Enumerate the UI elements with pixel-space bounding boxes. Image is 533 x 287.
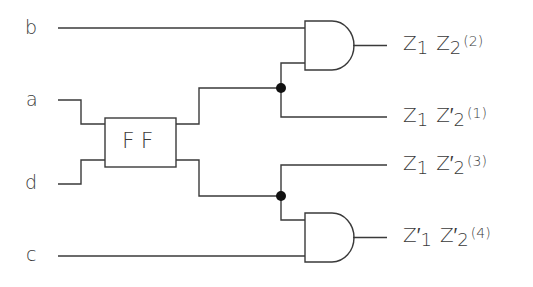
output-4-index: (4) — [471, 225, 491, 241]
output-2-z2: Z — [436, 31, 450, 55]
junction-dot-lower — [276, 191, 286, 201]
wire-ff-out-lower — [176, 160, 281, 196]
wire-junction-lower-to-gate — [281, 196, 305, 220]
wire-d — [58, 160, 105, 184]
output-1-index: (1) — [467, 105, 487, 121]
output-label-3: Z1Z′2(3) — [403, 153, 487, 173]
wire-a — [58, 100, 105, 124]
wire-output-3 — [281, 165, 387, 196]
flip-flop-label: FF — [122, 130, 159, 152]
and-gate-bottom — [305, 213, 354, 262]
output-2-z2-sub: 2 — [450, 37, 461, 58]
input-label-d: d — [25, 173, 37, 192]
input-label-b: b — [25, 18, 37, 37]
output-1-z1-sub: 1 — [417, 109, 428, 130]
output-2-z1-sub: 1 — [417, 37, 428, 58]
output-3-z2: Z′ — [436, 151, 453, 175]
and-gate-top — [305, 21, 354, 70]
output-label-4: Z′1Z′2(4) — [403, 225, 491, 245]
wire-junction-upper-to-gate — [281, 63, 305, 88]
output-label-2: Z1Z2(2) — [403, 33, 483, 53]
output-4-z1: Z′ — [403, 223, 420, 247]
output-4-z2: Z′ — [440, 223, 457, 247]
wire-output-1 — [281, 88, 387, 117]
input-label-a: a — [26, 90, 38, 109]
output-4-z1-sub: 1 — [420, 229, 431, 250]
input-label-c: c — [26, 245, 36, 264]
wire-ff-out-upper — [176, 88, 281, 124]
output-3-z2-sub: 2 — [454, 157, 465, 178]
output-1-z2-sub: 2 — [454, 109, 465, 130]
output-3-z1-sub: 1 — [417, 157, 428, 178]
output-3-index: (3) — [467, 153, 487, 169]
junction-dot-upper — [276, 83, 286, 93]
output-4-z2-sub: 2 — [457, 229, 468, 250]
output-1-z2: Z′ — [436, 103, 453, 127]
output-3-z1: Z — [403, 151, 417, 175]
output-1-z1: Z — [403, 103, 417, 127]
output-label-1: Z1Z′2(1) — [403, 105, 487, 125]
output-2-z1: Z — [403, 31, 417, 55]
output-2-index: (2) — [463, 33, 483, 49]
